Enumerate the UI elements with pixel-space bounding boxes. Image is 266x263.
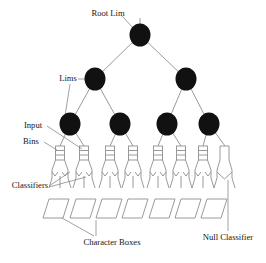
bin-box [106, 146, 115, 160]
lim-tree-diagram: Root Lim Lims Input Bins Classifiers Cha… [0, 0, 266, 263]
node-lim-ll[interactable] [60, 113, 81, 136]
label-character-boxes: Character Boxes [83, 237, 141, 247]
node-lim-rl[interactable] [157, 113, 178, 136]
bin-box [154, 146, 163, 160]
node-lim-rr[interactable] [199, 113, 220, 136]
node-lim-right[interactable] [176, 68, 197, 91]
bin-box [56, 146, 65, 160]
label-bins: Bins [23, 136, 39, 146]
node-root-lim[interactable] [130, 24, 151, 47]
bin-box [199, 146, 208, 160]
label-input: Input [24, 120, 43, 130]
bin-box [177, 146, 186, 160]
node-lim-lr[interactable] [110, 113, 131, 136]
label-classifiers: Classifiers [12, 180, 49, 190]
label-lims: Lims [59, 73, 77, 83]
label-null-classifier: Null Classifier [203, 232, 254, 242]
bin-box [129, 146, 138, 160]
figure-canvas: Root Lim Lims Input Bins Classifiers Cha… [0, 0, 266, 263]
label-root-lim: Root Lim [91, 8, 124, 18]
node-lim-left[interactable] [85, 68, 106, 91]
